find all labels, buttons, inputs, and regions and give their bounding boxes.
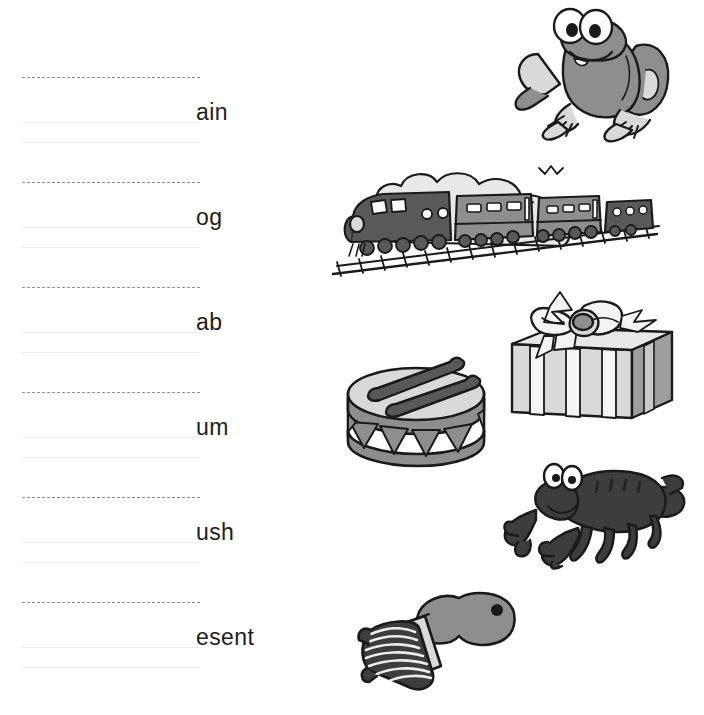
word-ending-label-5: ush: [196, 519, 234, 546]
faint-guide-line-upper: [22, 227, 200, 228]
dashed-writing-line: [22, 77, 200, 78]
word-ending-label-4: um: [196, 414, 229, 441]
word-ending-label-6: esent: [196, 624, 254, 651]
faint-guide-line-lower: [22, 562, 200, 563]
word-ending-label-1: ain: [196, 99, 228, 126]
faint-guide-line-lower: [22, 142, 200, 143]
faint-guide-line-lower: [22, 667, 200, 668]
word-ending-label-3: ab: [196, 309, 222, 336]
faint-guide-line-lower: [22, 352, 200, 353]
dashed-writing-line: [22, 392, 200, 393]
dashed-writing-line: [22, 287, 200, 288]
faint-guide-line-upper: [22, 647, 200, 648]
frog-illustration: [508, 4, 698, 144]
crab-illustration: [502, 458, 690, 570]
faint-guide-line-upper: [22, 122, 200, 123]
faint-guide-line-upper: [22, 437, 200, 438]
dashed-writing-line: [22, 497, 200, 498]
brush-illustration: [357, 588, 529, 696]
faint-guide-line-upper: [22, 542, 200, 543]
worksheet-page: ain og ab um ush esent: [0, 0, 704, 715]
gift-illustration: [492, 288, 678, 424]
dashed-writing-line: [22, 182, 200, 183]
writing-row-6: esent: [0, 602, 704, 707]
dashed-writing-line: [22, 602, 200, 603]
word-ending-label-2: og: [196, 204, 222, 231]
faint-guide-line-upper: [22, 332, 200, 333]
train-illustration: [331, 162, 661, 280]
drum-illustration: [334, 344, 510, 470]
faint-guide-line-lower: [22, 247, 200, 248]
faint-guide-line-lower: [22, 457, 200, 458]
